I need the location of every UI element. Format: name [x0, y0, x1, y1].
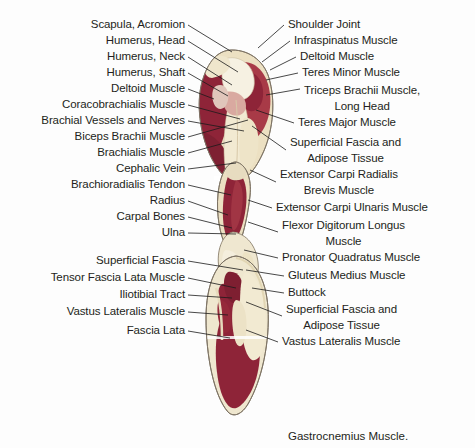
anatomy-label-line: Brachialis Muscle	[97, 145, 185, 161]
leader-line	[188, 25, 232, 52]
anatomy-label: Iliotibial Tract	[119, 287, 185, 303]
anatomy-label-line: Vastus Lateralis Muscle	[67, 304, 185, 320]
anatomy-label: Vastus Lateralis Muscle	[282, 334, 400, 350]
anatomy-label-line: Scapula, Acromion	[91, 17, 185, 33]
anatomy-label: Humerus, Neck	[107, 49, 185, 65]
anatomy-label: Teres Minor Muscle	[302, 65, 400, 81]
anatomy-label-line: Deltoid Muscle	[300, 49, 374, 65]
anatomy-label-line: Superficial Fascia	[96, 253, 185, 269]
leader-line	[270, 57, 296, 70]
anatomy-label-line: Infraspinatus Muscle	[294, 33, 397, 49]
leader-line	[266, 73, 298, 80]
anatomy-label: Triceps Brachii Muscle,Long Head	[304, 83, 420, 114]
anatomy-label-line: Humerus, Neck	[107, 49, 185, 65]
anatomy-label: Cephalic Vein	[116, 161, 185, 177]
anatomy-label: Extensor Carpi RadialisBrevis Muscle	[280, 167, 398, 198]
anatomy-label-line: Deltoid Muscle	[111, 81, 185, 97]
anatomy-label-line: Brachial Vessels and Nerves	[41, 113, 185, 129]
anatomy-label: Buttock	[288, 285, 326, 301]
anatomy-label: Scapula, Acromion	[91, 17, 185, 33]
anatomy-label-line: Brevis Muscle	[280, 183, 398, 199]
anatomy-label: Humerus, Shaft	[107, 65, 186, 81]
anatomy-label: Brachioradialis Tendon	[71, 177, 185, 193]
anatomy-label-line: Biceps Brachii Muscle	[75, 129, 185, 145]
anatomy-label-line: Long Head	[304, 99, 420, 115]
anatomy-label: Teres Major Muscle	[298, 115, 396, 131]
anatomy-label-line: Carpal Bones	[117, 209, 185, 225]
anatomy-label-line: Tensor Fascia Lata Muscle	[51, 270, 185, 286]
anatomy-label: Superficial Fascia andAdipose Tissue	[290, 135, 401, 166]
figure-caption: Gastrocnemius Muscle.	[288, 430, 408, 442]
anatomy-label-line: Shoulder Joint	[288, 17, 360, 33]
anatomy-label: Tensor Fascia Lata Muscle	[51, 270, 185, 286]
anatomy-label-line: Triceps Brachii Muscle,	[304, 83, 420, 99]
anatomy-label-line: Iliotibial Tract	[119, 287, 185, 303]
leader-line	[258, 25, 284, 48]
anatomy-label: Brachialis Muscle	[97, 145, 185, 161]
leader-line	[248, 200, 272, 208]
anatomy-label: Ulna	[162, 225, 185, 241]
anatomy-label-line: Flexor Digitorum Longus	[282, 218, 405, 234]
anatomy-label-line: Humerus, Shaft	[107, 65, 186, 81]
anatomy-label: Vastus Lateralis Muscle	[67, 304, 185, 320]
anatomy-label-line: Buttock	[288, 285, 326, 301]
anatomy-label-line: Superficial Fascia and	[290, 135, 401, 151]
leader-line	[262, 41, 290, 62]
leader-line	[250, 170, 276, 182]
anatomy-label-line: Muscle	[282, 234, 405, 250]
anatomy-label-line: Coracobrachialis Muscle	[62, 97, 185, 113]
anatomy-label-line: Vastus Lateralis Muscle	[282, 334, 400, 350]
anatomy-label-line: Extensor Carpi Radialis	[280, 167, 398, 183]
anatomy-label: Superficial Fascia	[96, 253, 185, 269]
anatomy-label-line: Gluteus Medius Muscle	[288, 268, 405, 284]
anatomy-label: Infraspinatus Muscle	[294, 33, 397, 49]
anatomy-label-line: Radius	[150, 193, 185, 209]
anatomy-label: Shoulder Joint	[288, 17, 360, 33]
anatomy-label: Biceps Brachii Muscle	[75, 129, 185, 145]
anatomy-label: Deltoid Muscle	[111, 81, 185, 97]
anatomy-label-line: Teres Major Muscle	[298, 115, 396, 131]
anatomy-label: Extensor Carpi Ulnaris Muscle	[276, 200, 428, 216]
anatomy-label-line: Fascia Lata	[127, 323, 185, 339]
anatomy-label-line: Humerus, Head	[106, 33, 185, 49]
anatomy-label: Brachial Vessels and Nerves	[41, 113, 185, 129]
anatomy-label: Flexor Digitorum LongusMuscle	[282, 218, 405, 249]
anatomy-label: Gluteus Medius Muscle	[288, 268, 405, 284]
anatomy-label: Deltoid Muscle	[300, 49, 374, 65]
anatomy-label-line: Superficial Fascia and	[286, 302, 397, 318]
anatomy-label: Radius	[150, 193, 185, 209]
anatomy-label-line: Brachioradialis Tendon	[71, 177, 185, 193]
anatomy-label: Humerus, Head	[106, 33, 185, 49]
anatomy-label-line: Pronator Quadratus Muscle	[282, 250, 420, 266]
anatomy-label-line: Teres Minor Muscle	[302, 65, 400, 81]
anatomy-label-line: Adipose Tissue	[286, 318, 397, 334]
anatomy-label: Fascia Lata	[127, 323, 185, 339]
anatomy-label-line: Cephalic Vein	[116, 161, 185, 177]
leader-line	[248, 222, 278, 232]
anatomy-label-line: Ulna	[162, 225, 185, 241]
anatomy-label: Coracobrachialis Muscle	[62, 97, 185, 113]
anatomy-label: Superficial Fascia andAdipose Tissue	[286, 302, 397, 333]
anatomy-label-line: Extensor Carpi Ulnaris Muscle	[276, 200, 428, 216]
anatomy-label: Carpal Bones	[117, 209, 185, 225]
anatomy-label: Pronator Quadratus Muscle	[282, 250, 420, 266]
anatomy-label-line: Adipose Tissue	[290, 151, 401, 167]
anatomy-figure: Scapula, AcromionHumerus, HeadHumerus, N…	[0, 0, 475, 448]
